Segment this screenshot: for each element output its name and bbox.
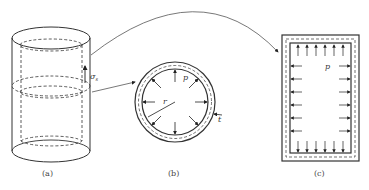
- caption-a: (a): [42, 169, 53, 178]
- caption-b: (b): [168, 169, 179, 178]
- pressure-label-b: p: [183, 73, 188, 82]
- caption-c: (c): [314, 169, 325, 178]
- panel-a-cylinder: [12, 27, 90, 162]
- sigma-label: σs: [90, 72, 98, 82]
- radius-label: r: [163, 97, 168, 106]
- figure: σs (a) p r t (b): [0, 0, 369, 190]
- panel-b-ring: [135, 62, 222, 142]
- panel-c-rectangle: [282, 35, 359, 161]
- thickness-label: t: [218, 115, 222, 124]
- pressure-label-c: p: [325, 62, 330, 71]
